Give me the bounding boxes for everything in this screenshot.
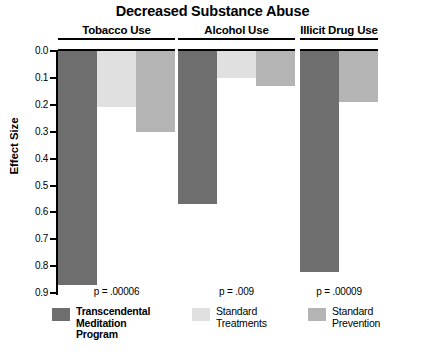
legend-swatch [308, 308, 326, 321]
footer-partial-text [0, 356, 425, 364]
group-baseline [300, 49, 378, 51]
legend-label: Transcendental Meditation Program [76, 306, 150, 341]
bar [256, 51, 295, 86]
bar [178, 51, 217, 204]
legend-label: Standard Prevention [332, 306, 380, 329]
bar [339, 51, 378, 102]
group-baseline [178, 49, 295, 51]
bar [136, 51, 175, 132]
bar [97, 51, 136, 107]
p-value-label: p = .00006 [58, 286, 175, 297]
chart-legend: Transcendental Meditation ProgramStandar… [0, 306, 425, 354]
bar [217, 51, 256, 78]
legend-swatch [192, 308, 210, 321]
legend-label: Standard Treatments [216, 306, 267, 329]
bar [300, 51, 339, 272]
chart-figure: Decreased Substance Abuse Effect Size 0.… [0, 0, 425, 364]
p-value-label: p = .00009 [300, 286, 378, 297]
legend-swatch [52, 308, 70, 321]
p-value-label: p = .009 [178, 286, 295, 297]
group-baseline [58, 49, 175, 51]
bar [58, 51, 97, 285]
